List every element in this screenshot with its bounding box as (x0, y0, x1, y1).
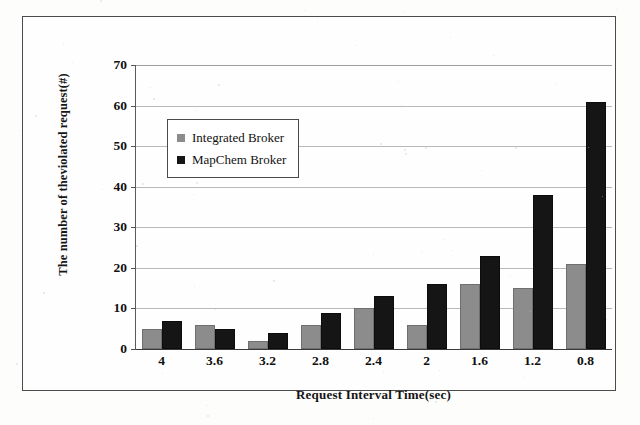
y-axis-tick-label: 10 (114, 300, 128, 316)
bar-integrated-broker-4 (142, 329, 162, 349)
y-axis-tick-label: 30 (114, 219, 128, 235)
bar-group (453, 65, 506, 349)
scan-artifact (530, 311, 531, 312)
y-axis-tick-label: 70 (114, 57, 128, 73)
bar-group (189, 65, 242, 349)
scan-artifact (616, 9, 617, 10)
scan-artifact (493, 55, 494, 56)
legend-item: Integrated Broker (177, 130, 286, 146)
bar-group (242, 65, 295, 349)
x-axis-tick-labels: 43.63.22.82.421.61.20.8 (135, 353, 612, 369)
bar-series-container (136, 65, 612, 349)
scan-artifact (515, 147, 517, 149)
x-axis-tick-label: 1.2 (506, 353, 559, 369)
bar-mapchem-broker-2.4 (374, 296, 394, 349)
x-axis-tick-label: 0.8 (559, 353, 612, 369)
bar-integrated-broker-3.6 (195, 325, 215, 349)
bar-integrated-broker-2 (407, 325, 427, 349)
bar-group (506, 65, 559, 349)
scan-artifact (398, 81, 399, 82)
scan-artifact (581, 187, 582, 188)
scan-artifact (142, 183, 144, 185)
scan-artifact (153, 98, 155, 100)
scan-artifact (162, 373, 163, 374)
legend-swatch-integrated-broker (177, 134, 185, 142)
chart-legend: Integrated Broker MapChem Broker (167, 119, 299, 178)
bar-mapchem-broker-3.2 (268, 333, 288, 349)
x-axis-tick-label: 2.8 (294, 353, 347, 369)
y-axis-tick-label: 0 (120, 341, 127, 357)
y-axis-title: The number of theviolated request(#) (56, 35, 71, 315)
legend-swatch-mapchem-broker (177, 156, 185, 164)
x-axis-title: Request Interval Time(sec) (135, 387, 612, 403)
bar-mapchem-broker-4 (162, 321, 182, 349)
x-axis-tick-label: 3.2 (241, 353, 294, 369)
x-axis-tick-label: 1.6 (453, 353, 506, 369)
scan-artifact (215, 309, 216, 310)
scan-artifact (150, 87, 151, 88)
scan-artifact (421, 252, 422, 253)
x-axis-tick-label: 4 (135, 353, 188, 369)
scan-artifact (404, 11, 405, 12)
scan-artifact (588, 147, 589, 148)
scan-artifact (606, 319, 607, 320)
scan-artifact (196, 182, 198, 184)
scan-artifact (207, 415, 209, 417)
y-axis-tick-label: 50 (114, 138, 128, 154)
bar-group (400, 65, 453, 349)
bar-integrated-broker-2.8 (301, 325, 321, 349)
bar-integrated-broker-1.2 (513, 288, 533, 349)
bar-mapchem-broker-1.2 (533, 195, 553, 349)
scan-artifact (19, 130, 20, 131)
scan-artifact (373, 418, 374, 419)
x-axis-tick-label: 2.4 (347, 353, 400, 369)
scan-artifact (207, 405, 208, 406)
x-axis-tick-label: 2 (400, 353, 453, 369)
scan-artifact (100, 0, 102, 2)
bar-integrated-broker-0.8 (566, 264, 586, 349)
y-axis-tick-label: 40 (114, 179, 128, 195)
bar-group (348, 65, 401, 349)
legend-label-integrated-broker: Integrated Broker (192, 130, 284, 146)
bar-mapchem-broker-2.8 (321, 313, 341, 350)
figure-border: The number of theviolated request(#) 010… (22, 16, 616, 391)
bar-integrated-broker-3.2 (248, 341, 268, 349)
bar-group (559, 65, 612, 349)
x-axis-tick-label: 3.6 (188, 353, 241, 369)
plot-area: 010203040506070 (135, 65, 612, 350)
scan-artifact (195, 110, 196, 111)
y-axis-tick-label: 20 (114, 260, 128, 276)
scan-artifact (193, 194, 194, 195)
bar-group (136, 65, 189, 349)
scan-artifact (476, 187, 477, 188)
scan-artifact (218, 84, 220, 86)
y-axis-tick-mark (131, 349, 136, 350)
scan-artifact (510, 275, 511, 276)
chart-figure: The number of theviolated request(#) 010… (0, 0, 640, 425)
bar-group (295, 65, 348, 349)
legend-label-mapchem-broker: MapChem Broker (192, 152, 286, 168)
scan-artifact (304, 10, 305, 11)
bar-mapchem-broker-3.6 (215, 329, 235, 349)
bar-mapchem-broker-0.8 (586, 102, 606, 349)
bar-mapchem-broker-1.6 (480, 256, 500, 349)
legend-item: MapChem Broker (177, 152, 286, 168)
scan-artifact (16, 363, 18, 365)
bar-mapchem-broker-2 (427, 284, 447, 349)
y-axis-tick-label: 60 (114, 98, 128, 114)
bar-integrated-broker-1.6 (460, 284, 480, 349)
